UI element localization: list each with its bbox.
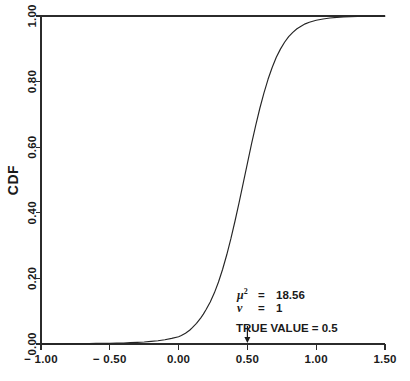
chart-background <box>0 0 410 381</box>
y-tick-label: 1.00 <box>26 4 38 27</box>
nu-equals: = <box>258 302 265 314</box>
x-tick-label: − 1.00 <box>24 353 58 365</box>
x-tick-label: − 0.50 <box>93 353 127 365</box>
mu-value: 18.56 <box>276 289 305 301</box>
mu-equals: = <box>258 289 265 301</box>
y-tick-label: 0.60 <box>26 136 38 159</box>
x-tick-label: 0.50 <box>236 353 259 365</box>
nu-value: 1 <box>276 302 283 314</box>
y-tick-label: 0.40 <box>26 201 38 224</box>
chart-canvas: 0.000.200.400.600.801.00 − 1.00− 0.500.0… <box>0 0 410 381</box>
y-tick-label: 0.20 <box>26 267 38 290</box>
true-value-label: TRUE VALUE = 0.5 <box>236 322 338 334</box>
y-axis-title: CDF <box>5 165 21 195</box>
cdf-chart-figure: 0.000.200.400.600.801.00 − 1.00− 0.500.0… <box>0 0 410 381</box>
x-tick-label: 1.50 <box>373 353 396 365</box>
x-tick-label: 1.00 <box>305 353 328 365</box>
mu-superscript: 2 <box>244 287 248 296</box>
x-tick-label: 0.00 <box>167 353 190 365</box>
y-tick-label: 0.80 <box>26 70 38 93</box>
nu-symbol: ν <box>237 301 243 315</box>
